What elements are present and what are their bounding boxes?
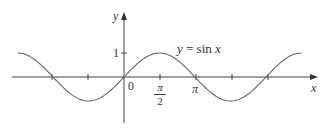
frac-denominator: 2 [157,95,163,107]
y-axis-label: y [113,10,118,22]
x-axis-label: x [311,82,316,94]
origin-label: 0 [128,80,134,92]
frac-numerator: π [157,81,163,93]
sine-graph [0,0,326,128]
tick-label-pi-over-2: π 2 [154,82,166,107]
x-axis-arrow-icon [310,74,318,80]
function-label: y = sin x [177,42,221,55]
tick-label-pi: π [192,83,198,95]
y-axis-arrow-icon [121,12,127,20]
y-tick-label-1: 1 [113,47,119,59]
